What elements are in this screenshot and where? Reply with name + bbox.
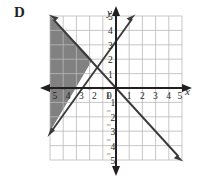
x-tick-5: 5: [178, 91, 183, 101]
x-tick-1: 1: [127, 91, 132, 101]
y-tick--4: 4: [111, 142, 116, 152]
x-tick-3: 3: [153, 91, 158, 101]
y-tick--5: 5: [111, 156, 116, 166]
y-tick--2: 2: [111, 113, 116, 123]
y-tick-2: 2: [108, 55, 113, 65]
x-tick--2: 2: [92, 91, 97, 101]
y-tick-4: 4: [108, 26, 113, 36]
y-tick--3: 3: [111, 127, 116, 137]
x-tick--5: 5: [53, 91, 58, 101]
graph-svg: x y 0 ⁻5 ⁻4 ⁻3 ⁻2 ⁻1 1 2 3: [0, 0, 220, 184]
y-tick-3: 3: [108, 41, 113, 51]
y-tick-1: 1: [108, 70, 113, 80]
x-tick--4: 4: [66, 91, 71, 101]
x-tick-2: 2: [140, 91, 145, 101]
x-tick--3: 3: [79, 91, 84, 101]
x-tick-4: 4: [166, 91, 171, 101]
y-tick--1: 1: [111, 98, 116, 108]
x-axis-label: x: [184, 85, 190, 97]
y-tick-5: 5: [108, 12, 113, 22]
coordinate-plane-figure: x y 0 ⁻5 ⁻4 ⁻3 ⁻2 ⁻1 1 2 3: [0, 0, 220, 184]
